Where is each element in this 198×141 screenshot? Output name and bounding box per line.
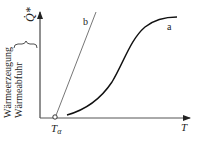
label-b: b	[83, 16, 88, 27]
x-axis-label: T	[181, 121, 188, 133]
diagram-canvas: b a T Tα Q̇*	[0, 0, 198, 141]
y-axis-label: Wärmeerzeugung Wärmeabfuhr	[3, 47, 25, 118]
curve-a-heat-generation	[67, 17, 177, 115]
y-axis-symbol: Q̇*	[23, 7, 37, 22]
line-b-heat-removal	[55, 12, 96, 118]
t-alpha-label: Tα	[51, 122, 62, 136]
y-axis-label-line2: Wärmeabfuhr	[14, 47, 25, 118]
label-a: a	[167, 21, 172, 32]
t-alpha-marker	[53, 115, 57, 119]
